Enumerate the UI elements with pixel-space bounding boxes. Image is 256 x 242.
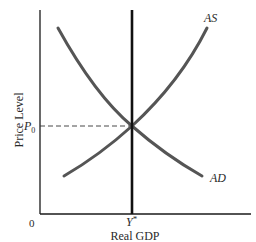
- as-label: AS: [203, 11, 217, 25]
- ad-as-diagram: Price Level P0 0 Y* Real GDP AS AD: [0, 0, 256, 242]
- as-curve: [64, 28, 207, 176]
- xlabel: Real GDP: [111, 229, 160, 242]
- ad-label: AD: [209, 171, 226, 185]
- origin-label: 0: [29, 217, 35, 229]
- ystar-label: Y*: [126, 214, 138, 229]
- ad-curve: [58, 28, 202, 176]
- p0-label: P0: [23, 119, 35, 135]
